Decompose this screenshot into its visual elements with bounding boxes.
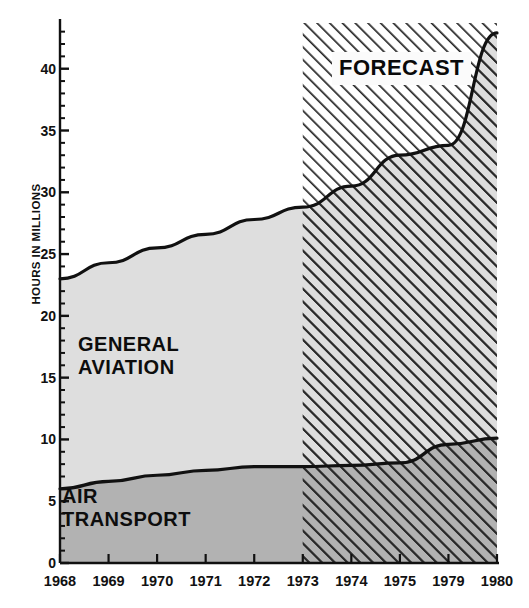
x-tick-label: 1969 [92, 573, 124, 589]
x-tick-label: 1974 [335, 573, 367, 589]
series-label-air-transport: AIR TRANSPORT [62, 485, 191, 531]
x-tick-label: 1980 [481, 573, 513, 589]
x-tick-label: 1971 [190, 573, 222, 589]
x-tick-label: 1970 [141, 573, 173, 589]
x-tick-label: 1968 [44, 573, 76, 589]
chart-container: HOURS IN MILLIONS 0510152025303540 19681… [0, 0, 529, 608]
x-tick-label: 1979 [432, 573, 464, 589]
x-tick-label: 1975 [384, 573, 416, 589]
x-tick-label: 1973 [287, 573, 319, 589]
forecast-region-label: FORECAST [332, 52, 471, 85]
x-tick-label: 1972 [238, 573, 270, 589]
series-label-general-aviation: GENERAL AVIATION [78, 333, 179, 379]
